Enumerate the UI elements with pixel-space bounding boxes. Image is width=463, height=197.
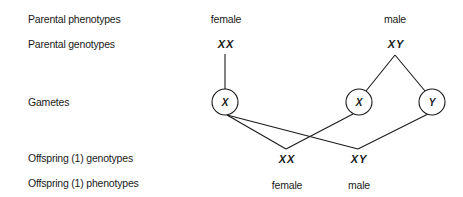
- female-parent-phenotype: female: [211, 13, 241, 25]
- offspring-phenotype-2: male: [348, 179, 370, 191]
- offspring-phenotype-1: female: [272, 179, 302, 191]
- female-parent-genotype: XX: [218, 38, 235, 50]
- offspring-genotype-1: XX: [279, 153, 296, 165]
- gamete-male-x: X: [356, 97, 363, 108]
- line-male-to-x: [366, 55, 395, 91]
- gamete-female-x: X: [222, 97, 229, 108]
- line-my-to-xy: [358, 114, 428, 149]
- male-parent-genotype: XY: [388, 38, 405, 50]
- male-parent-phenotype: male: [384, 13, 406, 25]
- cross-lines: [0, 0, 463, 197]
- line-fx-to-xy: [227, 115, 358, 149]
- line-male-to-y: [395, 55, 425, 91]
- line-mx-to-xx: [286, 114, 353, 149]
- line-fx-to-xx: [227, 115, 286, 149]
- gamete-male-y: Y: [429, 97, 436, 108]
- offspring-genotype-2: XY: [351, 153, 368, 165]
